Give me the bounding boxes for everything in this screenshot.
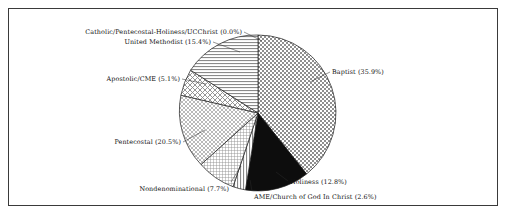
pie-chart-figure: Catholic/Pentecostal-Holiness/UCChrist (…	[0, 0, 508, 216]
slice-label-catholic: Catholic/Pentecostal-Holiness/UCChrist (…	[85, 28, 242, 36]
slice-label-holiness: Holiness (12.8%)	[290, 178, 347, 186]
slice-label-apostolic-cme: Apostolic/CME (5.1%)	[106, 75, 180, 83]
slice-label-ame-church-of-god-in-christ: AME/Church of God In Christ (2.6%)	[253, 193, 376, 201]
slice-label-nondenominational: Nondenominational (7.7%)	[139, 185, 229, 193]
pie-chart-canvas: Catholic/Pentecostal-Holiness/UCChrist (…	[0, 0, 508, 216]
slice-label-pentecostal: Pentecostal (20.5%)	[114, 138, 181, 146]
pie-slices	[179, 35, 336, 191]
slice-label-baptist: Baptist (35.9%)	[332, 68, 384, 76]
slice-label-united-methodist: United Methodist (15.4%)	[124, 38, 211, 46]
